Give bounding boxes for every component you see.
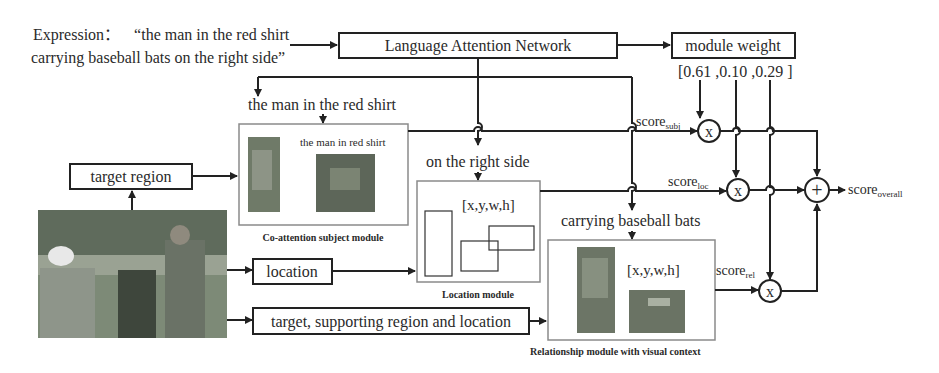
subject-phrase: the man in the red shirt — [248, 96, 397, 113]
svg-text:location: location — [266, 263, 318, 280]
svg-text:module weight: module weight — [685, 37, 781, 55]
diagram-canvas: Expression：“the man in the red shirt car… — [0, 0, 939, 373]
svg-text:+: + — [811, 179, 822, 201]
location-coords: [x,y,w,h] — [462, 197, 515, 213]
relationship-phrase: carrying baseball bats — [561, 212, 701, 230]
multiply-loc-node: x — [727, 179, 749, 201]
relationship-module-caption: Relationship module with visual context — [530, 346, 701, 357]
location-module-caption: Location module — [442, 289, 515, 300]
svg-text:x: x — [766, 283, 774, 300]
svg-text:Expression：“the man in the red: Expression：“the man in the red shirt — [33, 26, 290, 44]
target-region-box: target region — [70, 164, 192, 189]
co-attention-subject-module: the man in red shirt — [239, 124, 408, 225]
rel-to-sum-line — [781, 204, 817, 291]
relationship-context-image — [629, 290, 685, 333]
svg-text:carrying baseball bats on the: carrying baseball bats on the right side… — [31, 49, 285, 67]
module-weight-values: [0.61 ,0.10 ,0.29 ] — [678, 63, 793, 80]
svg-text:Language Attention Network: Language Attention Network — [385, 37, 572, 55]
score-subj-label: scoresubj — [636, 114, 681, 131]
score-rel-label: scorerel — [716, 263, 756, 280]
module-weight-box: module weight — [672, 33, 795, 58]
input-photo — [38, 210, 227, 338]
svg-text:x: x — [734, 182, 742, 199]
sum-node: + — [805, 178, 829, 202]
score-loc-label: scoreloc — [668, 174, 709, 191]
score-overall-label: scoreoverall — [848, 182, 903, 199]
target-supporting-box: target, supporting region and location — [253, 308, 529, 334]
subject-inner-text: the man in red shirt — [300, 136, 386, 148]
subject-module-caption: Co-attention subject module — [262, 232, 384, 243]
multiply-subj-node: x — [698, 120, 720, 142]
relationship-coords: [x,y,w,h] — [627, 262, 680, 278]
subj-to-sum-line — [720, 128, 817, 176]
location-input-box: location — [253, 259, 332, 284]
svg-text:x: x — [705, 123, 713, 140]
location-phrase-arrow — [478, 77, 482, 145]
multiply-rel-node: x — [759, 280, 781, 302]
location-phrase: on the right side — [426, 153, 530, 171]
expression-text: Expression：“the man in the red shirt car… — [31, 26, 290, 67]
relationship-module: [x,y,w,h] — [548, 240, 715, 340]
weight-rel-arrow — [770, 80, 774, 279]
location-module: [x,y,w,h] — [417, 181, 540, 282]
svg-text:target, supporting region and: target, supporting region and location — [271, 313, 511, 331]
loc-to-sum-line — [749, 186, 804, 190]
language-attention-network-box: Language Attention Network — [339, 33, 617, 58]
svg-text:target region: target region — [90, 168, 171, 186]
